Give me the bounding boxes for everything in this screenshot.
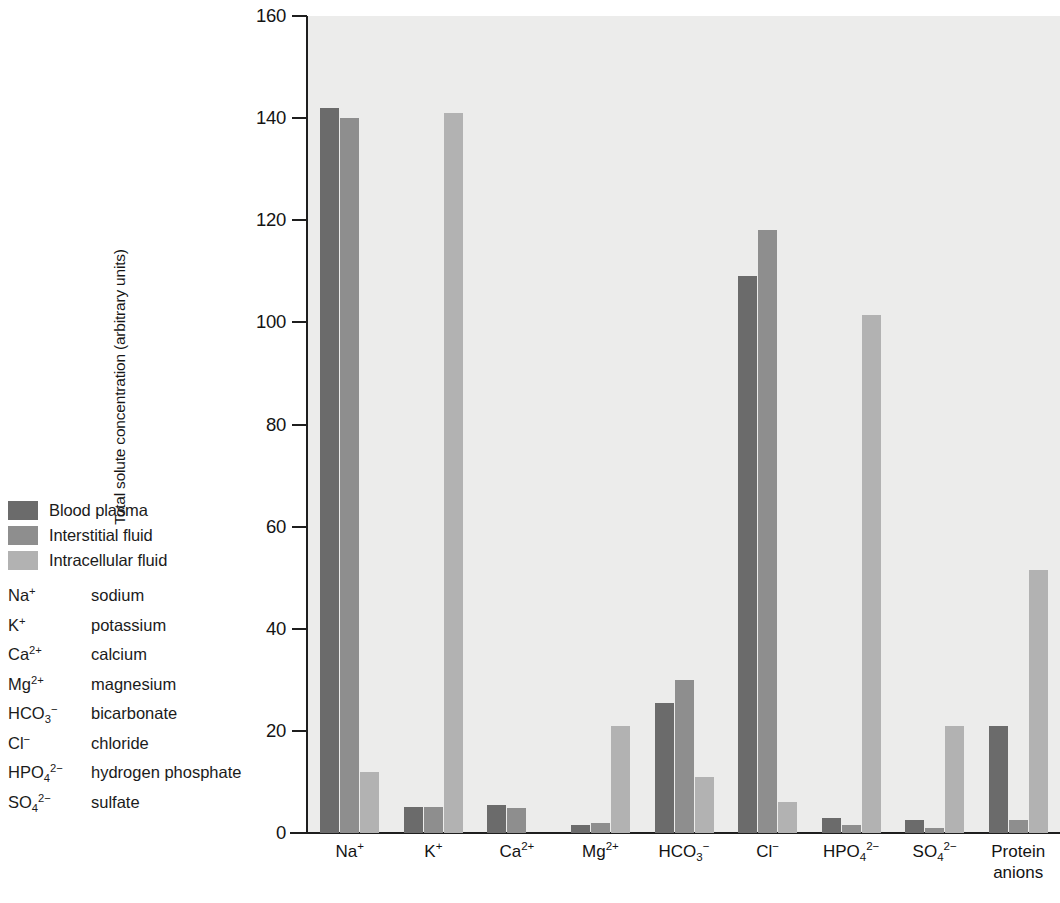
y-axis-tick-label: 80: [266, 414, 286, 436]
x-axis-tick-label: Proteinanions: [991, 842, 1045, 883]
y-axis-tick-mark: [292, 730, 307, 732]
x-axis-tick-label: Ca2+: [499, 842, 534, 863]
y-axis-tick-label: 160: [256, 5, 286, 27]
y-axis-tick-mark: [292, 628, 307, 630]
y-axis-tick-mark: [292, 832, 307, 834]
y-axis-tick-label: 20: [266, 720, 286, 742]
bar-chart: Total solute concentration (arbitrary un…: [0, 0, 1060, 903]
bar: [758, 230, 777, 833]
y-axis-tick-mark: [292, 526, 307, 528]
x-axis-tick-label: Cl−: [756, 842, 779, 863]
bar: [822, 818, 841, 833]
y-axis-tick-label: 40: [266, 618, 286, 640]
y-axis-tick-label: 60: [266, 516, 286, 538]
bar: [862, 315, 881, 833]
y-axis-title: Total solute concentration (arbitrary un…: [111, 177, 129, 597]
y-axis-tick-mark: [292, 424, 307, 426]
bar: [925, 828, 944, 833]
bar: [675, 680, 694, 833]
bar: [655, 703, 674, 833]
x-axis-tick-label: K+: [424, 842, 442, 863]
bar: [738, 276, 757, 833]
bar: [695, 777, 714, 833]
bar: [424, 807, 443, 833]
bar: [404, 807, 423, 833]
bar: [1029, 570, 1048, 833]
bar: [487, 805, 506, 833]
x-axis-tick-label: Na+: [336, 842, 364, 863]
x-axis-tick-label: HPO42−: [823, 842, 879, 863]
bar: [945, 726, 964, 833]
bar: [842, 825, 861, 833]
bar: [611, 726, 630, 833]
y-axis-tick-label: 120: [256, 209, 286, 231]
y-axis-tick-label: 140: [256, 107, 286, 129]
bar: [989, 726, 1008, 833]
bar: [320, 108, 339, 833]
y-axis-tick-mark: [292, 117, 307, 119]
y-axis-tick-label: 100: [256, 311, 286, 333]
y-axis-tick-mark: [292, 15, 307, 17]
bar: [778, 802, 797, 833]
x-axis-tick-label: SO42−: [913, 842, 957, 863]
bar: [1009, 820, 1028, 833]
y-axis-tick-mark: [292, 219, 307, 221]
bar: [591, 823, 610, 833]
y-axis-tick-label: 0: [276, 822, 286, 844]
x-axis-tick-label: Mg2+: [582, 842, 619, 863]
y-axis-tick-mark: [292, 321, 307, 323]
bar: [905, 820, 924, 833]
bar: [340, 118, 359, 833]
bar: [360, 772, 379, 833]
x-axis-tick-label: HCO3−: [659, 842, 710, 863]
bar: [444, 113, 463, 833]
bar: [507, 808, 526, 833]
bar: [571, 825, 590, 833]
